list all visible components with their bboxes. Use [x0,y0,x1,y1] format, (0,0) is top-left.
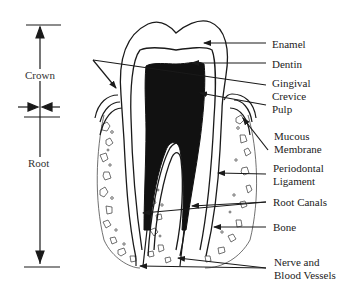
dimension-scale [18,25,61,267]
label-line: Mucous [274,130,322,143]
label-line: Blood Vessels [274,269,336,282]
region-label-root: Root [27,157,50,169]
label-mucous-membrane: Mucous Membrane [274,130,322,156]
label-root-canals: Root Canals [273,196,327,209]
label-line: Gingival [272,77,311,90]
label-periodontal-ligament: Periodontal Ligament [273,162,324,188]
label-line: Nerve and [274,256,336,269]
label-enamel: Enamel [272,38,306,51]
label-line: Pulp [272,103,292,115]
label-nerve-blood-vessels: Nerve and Blood Vessels [274,256,336,282]
label-line: Enamel [272,38,306,50]
label-line: Root Canals [273,196,327,208]
label-line: Dentin [272,58,302,70]
label-line: Ligament [273,175,324,188]
label-line: Periodontal [273,162,324,175]
pulp-chamber [144,62,205,230]
label-line: Bone [273,221,296,233]
label-line: Crevice [272,90,311,103]
label-dentin: Dentin [272,58,302,71]
tooth-diagram: Crown Root Enamel Dentin Gingival Crevic… [0,0,359,299]
label-bone: Bone [273,221,296,234]
label-pulp: Pulp [272,103,292,116]
label-gingival-crevice: Gingival Crevice [272,77,311,103]
label-line: Membrane [274,143,322,156]
region-label-crown: Crown [24,69,56,81]
